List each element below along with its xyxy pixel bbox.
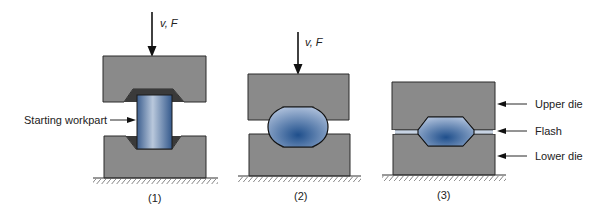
panel-2: v, F (2) [238,32,361,202]
callout-flash: Flash [535,125,562,137]
callout-lower-die: Lower die [535,150,583,162]
force-arrow-icon [148,12,157,57]
callout-arrow-icon [110,117,136,123]
caption-2: (2) [294,190,307,202]
ground-hatch [238,177,361,182]
caption-3: (3) [437,189,450,201]
force-label: v, F [305,36,324,48]
callout-arrow-icon [497,128,527,134]
ground-hatch [93,179,218,184]
starting-workpart [137,95,172,149]
callout-arrow-icon [497,153,527,159]
deformed-workpart [268,107,328,147]
force-label: v, F [160,17,179,29]
callout-arrow-icon [497,101,527,107]
forged-workpart [418,117,474,146]
caption-1: (1) [148,192,161,204]
panel-3: Upper die Flash Lower die (3) [382,82,583,201]
panel-1: v, F Starting workpart (1) [24,12,218,204]
force-arrow-icon [294,32,303,75]
ground-hatch [382,176,506,181]
impression-die-forging-diagram: v, F Starting workpart (1) v, F [0,0,603,214]
callout-upper-die: Upper die [535,98,583,110]
callout-starting-workpart: Starting workpart [24,114,107,126]
